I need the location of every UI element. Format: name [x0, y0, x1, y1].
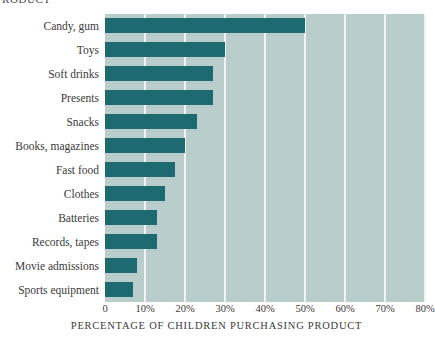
bar: [105, 42, 225, 57]
x-axis-tick-label: 20%: [175, 303, 194, 314]
bar: [105, 90, 213, 105]
x-axis-tick-label: 30%: [215, 303, 234, 314]
bar-row: [105, 254, 425, 278]
bar: [105, 258, 137, 273]
bar-row: [105, 62, 425, 86]
x-axis-tick-label: 80%: [415, 303, 434, 314]
bar: [105, 282, 133, 297]
x-axis-tick-label: 60%: [335, 303, 354, 314]
plot-area: [105, 14, 425, 302]
y-axis-label: Movie admissions: [15, 254, 99, 278]
bar-row: [105, 86, 425, 110]
y-axis-label: Sports equipment: [18, 278, 99, 302]
x-axis-tick-label: 50%: [295, 303, 314, 314]
bar-row: [105, 278, 425, 302]
bar: [105, 66, 213, 81]
x-axis-tick-label: 10%: [135, 303, 154, 314]
bar-row: [105, 14, 425, 38]
x-axis-title: PERCENTAGE OF CHILDREN PURCHASING PRODUC…: [0, 320, 433, 331]
bar: [105, 162, 175, 177]
y-axis-label: Candy, gum: [44, 14, 99, 38]
bar: [105, 186, 165, 201]
bar-rows: [105, 14, 425, 302]
y-axis-label: Books, magazines: [15, 134, 99, 158]
y-axis-label: Records, tapes: [32, 230, 99, 254]
bar-row: [105, 110, 425, 134]
bar: [105, 114, 197, 129]
y-axis-label: Toys: [77, 38, 99, 62]
bar-row: [105, 182, 425, 206]
bar-row: [105, 206, 425, 230]
x-axis-tick-label: 70%: [375, 303, 394, 314]
y-axis-label: Soft drinks: [48, 62, 99, 86]
y-axis-label: Fast food: [56, 158, 99, 182]
x-axis-tick-labels: 010%20%30%40%50%60%70%80%: [0, 303, 433, 319]
bar: [105, 234, 157, 249]
y-axis-label: Batteries: [58, 206, 99, 230]
bar: [105, 138, 185, 153]
x-axis-tick-label: 0: [102, 303, 107, 314]
y-axis-label: Snacks: [66, 110, 99, 134]
bar: [105, 18, 305, 33]
bar-row: [105, 158, 425, 182]
bar-row: [105, 38, 425, 62]
bar-row: [105, 134, 425, 158]
bar: [105, 210, 157, 225]
x-axis-tick-label: 40%: [255, 303, 274, 314]
y-axis-label: Presents: [61, 86, 99, 110]
bar-row: [105, 230, 425, 254]
y-axis-labels: Candy, gumToysSoft drinksPresentsSnacksB…: [0, 14, 99, 302]
y-axis-label: Clothes: [64, 182, 99, 206]
